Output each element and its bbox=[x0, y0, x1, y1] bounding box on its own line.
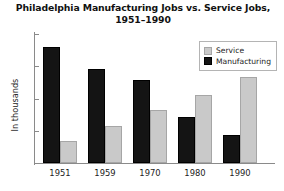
bar-service[interactable] bbox=[240, 77, 257, 163]
bar-service[interactable] bbox=[60, 141, 77, 163]
legend-swatch-service bbox=[204, 47, 212, 55]
y-tick: 0 bbox=[0, 163, 35, 164]
y-tick: 400 bbox=[0, 34, 35, 35]
bar-service[interactable] bbox=[195, 95, 212, 163]
bar-group: 1951 bbox=[43, 34, 77, 163]
x-tick-label: 1959 bbox=[82, 168, 128, 178]
bar-manufacturing[interactable] bbox=[88, 69, 105, 163]
bar-chart: Philadelphia Manufacturing Jobs vs. Serv… bbox=[0, 0, 284, 191]
y-tick-mark bbox=[35, 163, 39, 164]
chart-legend: ServiceManufacturing bbox=[199, 41, 277, 71]
legend-swatch-manufacturing bbox=[204, 57, 212, 65]
bar-group: 1970 bbox=[133, 34, 167, 163]
y-tick: 300 bbox=[0, 66, 35, 67]
bar-manufacturing[interactable] bbox=[43, 47, 60, 163]
chart-title: Philadelphia Manufacturing Jobs vs. Serv… bbox=[14, 2, 272, 25]
bar-manufacturing[interactable] bbox=[223, 135, 240, 163]
x-tick-label: 1980 bbox=[172, 168, 218, 178]
bar-manufacturing[interactable] bbox=[133, 80, 150, 163]
bar-group: 1959 bbox=[88, 34, 122, 163]
x-tick-label: 1951 bbox=[37, 168, 83, 178]
chart-title-line-1: Philadelphia Manufacturing Jobs vs. Serv… bbox=[16, 2, 270, 13]
legend-label: Service bbox=[216, 46, 244, 55]
bar-service[interactable] bbox=[105, 126, 122, 163]
x-tick-label: 1970 bbox=[127, 168, 173, 178]
legend-item[interactable]: Service bbox=[204, 46, 271, 56]
legend-item[interactable]: Manufacturing bbox=[204, 56, 271, 66]
legend-label: Manufacturing bbox=[216, 57, 271, 66]
x-axis-line bbox=[34, 163, 275, 164]
y-axis-title: In thousands bbox=[0, 0, 8, 60]
y-tick: 100 bbox=[0, 131, 35, 132]
bar-manufacturing[interactable] bbox=[178, 117, 195, 163]
x-tick-label: 1990 bbox=[217, 168, 263, 178]
bar-service[interactable] bbox=[150, 110, 167, 163]
chart-title-line-2: 1951–1990 bbox=[115, 14, 171, 25]
y-tick: 200 bbox=[0, 99, 35, 100]
y-axis-title-text: In thousands bbox=[10, 60, 20, 150]
